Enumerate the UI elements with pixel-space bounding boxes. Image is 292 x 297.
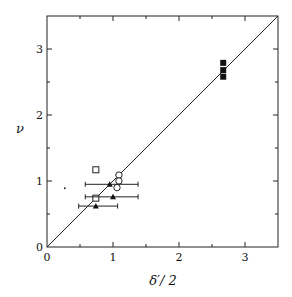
scatter-plot: 0 1 2 3 0 1 2 3 δ′/ 2 ν <box>0 0 292 297</box>
dot-marker <box>64 187 66 189</box>
open-circle-marker <box>116 178 122 184</box>
x-tick-2: 2 <box>176 251 183 264</box>
open-circle-marker <box>116 172 122 178</box>
x-tick-1: 1 <box>110 251 117 264</box>
x-tick-0: 0 <box>44 251 51 264</box>
open-circle-marker <box>114 184 120 190</box>
filled-square-marker <box>220 74 226 80</box>
y-tick-2: 2 <box>36 109 43 122</box>
x-axis-label: δ′/ 2 <box>149 273 177 288</box>
x-tick-3: 3 <box>242 251 249 264</box>
y-tick-1: 1 <box>36 175 43 188</box>
open-square-marker <box>93 195 99 201</box>
tick-labels: 0 1 2 3 0 1 2 3 <box>36 43 249 264</box>
data-points <box>64 60 226 209</box>
open-square-marker <box>93 167 99 173</box>
y-tick-3: 3 <box>36 43 43 56</box>
filled-square-marker <box>220 60 226 66</box>
y-tick-0: 0 <box>36 241 43 254</box>
filled-square-marker <box>220 67 226 73</box>
identity-line <box>47 16 278 247</box>
identity-line-path <box>47 16 278 247</box>
y-axis-label: ν <box>16 121 24 136</box>
